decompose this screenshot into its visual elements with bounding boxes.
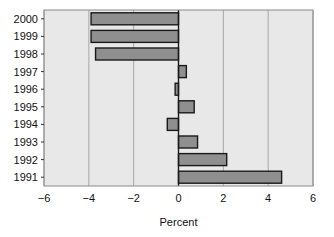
bar <box>167 118 178 130</box>
bar <box>91 13 178 25</box>
chart-canvas: 2000199919981997199619951994199319921991… <box>0 0 334 237</box>
bar <box>91 30 178 42</box>
bar <box>179 154 227 166</box>
x-axis-tick-label: −6 <box>38 192 51 204</box>
y-axis-tick-label: 2000 <box>14 13 38 25</box>
y-axis-tick-label: 1992 <box>14 154 38 166</box>
y-axis-tick-label: 1995 <box>14 101 38 113</box>
x-axis-tick-label: −4 <box>83 192 96 204</box>
x-axis-tick-label: 4 <box>265 192 271 204</box>
x-axis-tick-label: 6 <box>310 192 316 204</box>
y-axis-tick-label: 1999 <box>14 30 38 42</box>
x-axis-tick-label: −2 <box>127 192 140 204</box>
bar <box>179 66 187 78</box>
x-axis-tick-label: 2 <box>220 192 226 204</box>
bar <box>179 171 282 183</box>
bar <box>179 136 198 148</box>
bar <box>179 101 195 113</box>
y-axis-tick-label: 1996 <box>14 83 38 95</box>
bar <box>96 48 179 60</box>
y-axis-tick-label: 1993 <box>14 136 38 148</box>
bar-chart-figure: 2000199919981997199619951994199319921991… <box>0 0 334 237</box>
x-axis-tick-label: 0 <box>175 192 181 204</box>
y-axis-tick-label: 1991 <box>14 171 38 183</box>
y-axis-tick-labels: 2000199919981997199619951994199319921991 <box>14 13 38 183</box>
y-axis-tick-label: 1998 <box>14 48 38 60</box>
x-axis-title: Percent <box>160 216 198 228</box>
x-axis-tick-labels: −6−4−20246 <box>38 192 316 204</box>
y-axis-tick-label: 1997 <box>14 66 38 78</box>
y-axis-tick-label: 1994 <box>14 118 38 130</box>
